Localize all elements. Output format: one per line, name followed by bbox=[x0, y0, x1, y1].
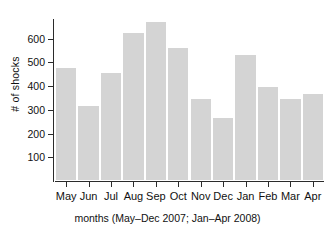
x-axis-tick-mark bbox=[268, 182, 269, 187]
y-axis-tick-mark bbox=[48, 110, 53, 111]
bar-feb bbox=[257, 86, 279, 181]
x-axis-tick-label: Oct bbox=[170, 190, 187, 202]
x-axis-tick-mark bbox=[66, 182, 67, 187]
y-axis-tick-label: 400 bbox=[27, 80, 45, 92]
y-axis-tick-label: 500 bbox=[27, 56, 45, 68]
bar-oct bbox=[167, 47, 189, 181]
bar-apr bbox=[302, 93, 324, 181]
x-axis-tick-label: Nov bbox=[191, 190, 211, 202]
bar-chart: # of shocks 100200300400500600 MayJunJul… bbox=[0, 0, 335, 247]
x-axis-tick-mark bbox=[223, 182, 224, 187]
x-axis-tick-mark bbox=[133, 182, 134, 187]
x-axis-tick-label: Aug bbox=[124, 190, 144, 202]
x-axis-tick-label: Sep bbox=[146, 190, 166, 202]
x-axis-tick-label: Apr bbox=[304, 190, 321, 202]
bar-aug bbox=[122, 32, 144, 181]
bar-jul bbox=[100, 72, 122, 181]
bar-sep bbox=[145, 21, 167, 181]
x-axis-tick-mark bbox=[89, 182, 90, 187]
y-axis-tick-mark bbox=[48, 39, 53, 40]
x-axis-tick-mark bbox=[156, 182, 157, 187]
y-axis-tick-label: 100 bbox=[27, 151, 45, 163]
x-axis-title: months (May–Dec 2007; Jan–Apr 2008) bbox=[0, 212, 335, 224]
bar-jan bbox=[234, 54, 256, 181]
bar-series bbox=[55, 15, 324, 181]
bar-dec bbox=[212, 117, 234, 181]
y-axis-title: # of shocks bbox=[9, 39, 21, 129]
x-axis-tick-label: Jul bbox=[104, 190, 118, 202]
y-axis-tick-label: 200 bbox=[27, 128, 45, 140]
bar-may bbox=[55, 67, 77, 181]
y-axis-tick-label: 300 bbox=[27, 104, 45, 116]
bar-jun bbox=[77, 105, 99, 181]
y-axis-tick-mark bbox=[48, 134, 53, 135]
x-axis-tick-label: Jan bbox=[237, 190, 255, 202]
bar-mar bbox=[279, 98, 301, 181]
x-axis-tick-label: Dec bbox=[213, 190, 233, 202]
x-axis-tick-mark bbox=[201, 182, 202, 187]
y-axis-tick-mark bbox=[48, 62, 53, 63]
x-axis-tick-label: May bbox=[56, 190, 77, 202]
y-axis-tick-mark bbox=[48, 86, 53, 87]
x-axis-tick-label: Feb bbox=[258, 190, 277, 202]
x-axis-tick-label: Jun bbox=[80, 190, 98, 202]
y-axis-tick-label: 600 bbox=[27, 33, 45, 45]
x-axis-tick-label: Mar bbox=[281, 190, 300, 202]
x-axis-line bbox=[55, 181, 324, 182]
bar-nov bbox=[190, 98, 212, 181]
x-axis-tick-mark bbox=[313, 182, 314, 187]
x-axis-tick-mark bbox=[246, 182, 247, 187]
y-axis-line bbox=[53, 19, 54, 182]
x-axis-tick-mark bbox=[111, 182, 112, 187]
x-axis-tick-mark bbox=[290, 182, 291, 187]
x-axis-tick-mark bbox=[178, 182, 179, 187]
y-axis-tick-mark bbox=[48, 157, 53, 158]
